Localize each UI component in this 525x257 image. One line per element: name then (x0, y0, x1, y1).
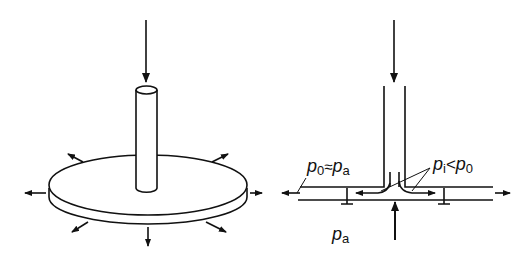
radial-arrow-ne (212, 154, 228, 162)
label-pi-lt-p0: pi<p0 (432, 154, 473, 176)
label-p0-approx-pa: p0≈pa (306, 156, 351, 178)
radial-arrow-sw (72, 222, 88, 232)
right-panel-cross-section (282, 20, 510, 240)
label-pa: pa (331, 224, 350, 246)
tube-top (136, 86, 157, 94)
radial-arrow-nw (68, 154, 83, 162)
figure-canvas: p0≈pa pi<p0 pa (0, 0, 525, 257)
support-left (341, 188, 353, 204)
gap-flow-left (356, 183, 390, 193)
support-right (438, 188, 450, 204)
radial-arrow-se (206, 222, 226, 232)
left-panel-3d-disk (25, 20, 262, 246)
tube-body (136, 90, 157, 192)
